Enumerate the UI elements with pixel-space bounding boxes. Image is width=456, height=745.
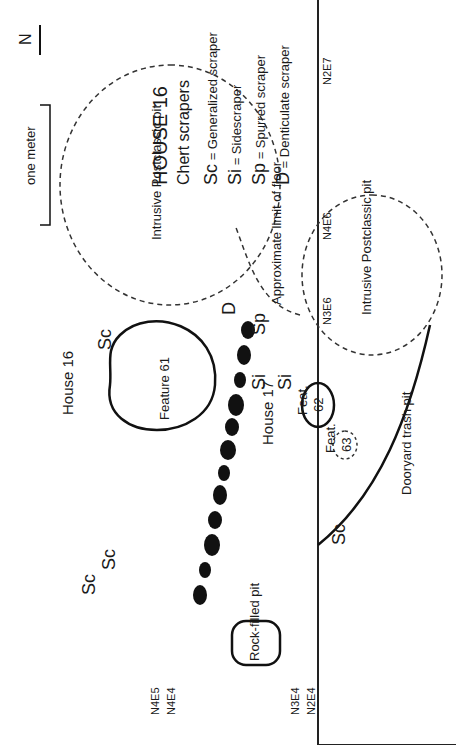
pit-lower-label: Intrusive Postclassic pit — [150, 105, 163, 240]
legend-meaning: Sidescraper — [229, 85, 244, 154]
grid-label-n4e6: N4E6 — [322, 212, 333, 240]
grid-label-n4e5: N4E5 — [150, 687, 161, 715]
map-subtitle: Chert scrapers — [176, 80, 192, 185]
feature-63-number: 63 — [340, 438, 353, 452]
marker-sc: Sc — [80, 574, 98, 595]
house-17-label: House 17 — [260, 381, 275, 445]
grid-label-n2e4: N2E4 — [306, 687, 317, 715]
feature-62-number: 62 — [312, 398, 325, 412]
legend-code: Sp — [249, 163, 269, 185]
grid-label-n3e6: N3E6 — [322, 297, 333, 325]
feature-62-label: Feat. — [296, 385, 309, 415]
feature-61-label: Feature 61 — [158, 357, 171, 420]
pit-upper-label: Intrusive Postclassic pit — [360, 180, 373, 315]
house-17-wall-stones — [193, 321, 255, 605]
north-arrow-icon: N — [18, 33, 34, 45]
legend-code: Sc — [201, 164, 221, 185]
grid-label-n3e4: N3E4 — [290, 687, 301, 715]
legend-meaning: Spurred scraper — [253, 55, 268, 148]
feature-63-label: Feat. — [324, 423, 337, 453]
legend-item-sp: Sp = Spurred scraper — [250, 55, 268, 185]
marker-d: D — [220, 302, 238, 315]
scale-label: one meter — [24, 126, 37, 185]
rock-filled-pit-label: Rock-filled pit — [248, 583, 261, 661]
marker-si: Si — [276, 374, 294, 390]
legend-meaning: Denticulate scraper — [277, 45, 292, 157]
legend-code: Si — [225, 169, 245, 185]
grid-label-n2e7: N2E7 — [322, 57, 333, 85]
scale-bar-bracket — [40, 105, 50, 225]
floor-limit-label: Approximate limit of floor — [270, 162, 283, 305]
floor-limit-line — [235, 225, 300, 315]
legend-item-sc: Sc = Generalized scraper — [202, 32, 220, 185]
dooryard-label: Dooryard trash pit — [400, 392, 413, 495]
legend-meaning: Generalized scraper — [205, 32, 220, 149]
marker-si: Si — [250, 374, 268, 390]
marker-sc: Sc — [96, 329, 114, 350]
marker-sp: Sp — [250, 313, 268, 335]
marker-sc: Sc — [100, 549, 118, 570]
grid-label-n4e4: N4E4 — [166, 687, 177, 715]
site-plan-map: HOUSE 16 Chert scrapers Sc = Generalized… — [0, 0, 456, 745]
legend-item-si: Si = Sidescraper — [226, 85, 244, 185]
house-16-label: House 16 — [60, 351, 75, 415]
marker-sc: Sc — [330, 524, 348, 545]
